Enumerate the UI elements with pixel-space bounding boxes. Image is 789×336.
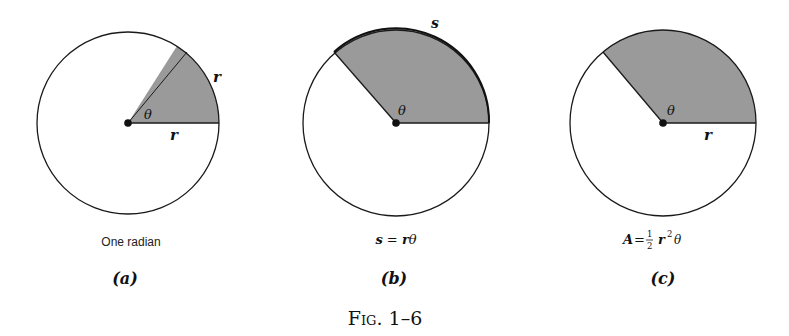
radius-label-c: r: [704, 126, 713, 144]
label-b: (b): [381, 269, 407, 288]
center-point-a: [124, 119, 132, 127]
caption-c-r: r: [658, 232, 666, 247]
theta-label-a: θ: [144, 107, 152, 122]
arc-label-b: s: [431, 15, 439, 31]
caption-c-theta: θ: [674, 233, 682, 247]
caption-b-theta: θ: [409, 232, 417, 247]
label-c: (c): [651, 269, 676, 288]
center-point-c: [659, 119, 667, 127]
caption-c-exp: 2: [667, 229, 672, 239]
figure-1-6: θ r r One radian (a) θ s s = rθ (b) θ r …: [0, 0, 789, 336]
caption-c-num: 1: [647, 229, 652, 239]
label-a: (a): [112, 269, 138, 288]
sector-one-radian: [128, 46, 219, 123]
sector-area: [603, 30, 756, 123]
caption-c-den: 2: [647, 241, 652, 251]
theta-label-b: θ: [398, 103, 406, 118]
figure-caption: Fig. 1–6: [348, 307, 422, 329]
panel-a: θ r r One radian (a): [37, 32, 222, 288]
arc-label-a: r: [213, 68, 222, 86]
center-point-b: [392, 119, 400, 127]
caption-a: One radian: [101, 235, 160, 249]
caption-c-eq: =: [634, 232, 645, 247]
caption-b-eq: =: [383, 232, 402, 247]
caption-c: A = 1 2 r 2 θ: [621, 229, 682, 251]
radius-label-a: r: [170, 126, 179, 144]
caption-b: s = rθ: [375, 232, 416, 247]
panel-b: θ s s = rθ (b): [303, 15, 489, 288]
theta-label-c: θ: [667, 103, 675, 118]
sector-arc-length: [334, 28, 489, 123]
caption-c-A: A: [621, 232, 633, 247]
panel-c: θ r A = 1 2 r 2 θ (c): [570, 30, 756, 288]
